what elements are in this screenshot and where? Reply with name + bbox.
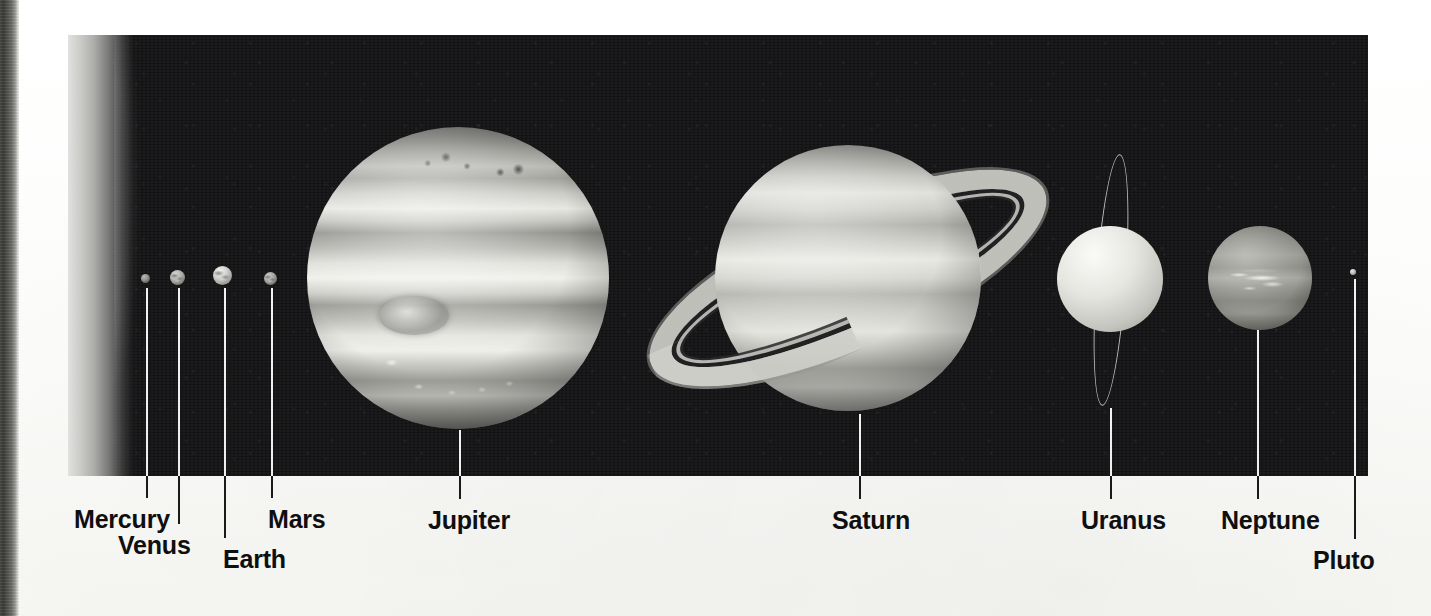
figure-page: MercuryVenusEarthMarsJupiterSaturnUranus…: [0, 0, 1431, 616]
planet-label-earth: Earth: [223, 545, 286, 574]
planet-label-uranus: Uranus: [1081, 506, 1166, 535]
jupiter-terminator-shading: [307, 127, 609, 429]
book-spine-gutter: [0, 0, 19, 616]
neptune-terminator-shading: [1208, 226, 1312, 330]
pluto-planet-icon: [1350, 269, 1356, 275]
space-photo-panel: [68, 35, 1368, 476]
planet-label-pluto: Pluto: [1313, 546, 1375, 575]
sun-limb-edge: [114, 35, 148, 476]
leader-line-pluto: [1354, 279, 1356, 539]
book-spine-grain: [0, 0, 19, 616]
leader-line-neptune: [1257, 330, 1259, 499]
mars-planet-icon: [264, 272, 277, 285]
planet-label-venus: Venus: [118, 531, 191, 560]
planet-label-jupiter: Jupiter: [428, 506, 510, 535]
neptune-planet-icon: [1208, 226, 1312, 330]
leader-line-earth: [224, 288, 226, 538]
leader-line-uranus: [1110, 408, 1112, 499]
mercury-planet-icon: [141, 274, 150, 283]
planet-label-neptune: Neptune: [1221, 506, 1320, 535]
saturn-planet-icon: [633, 208, 1063, 348]
planet-label-mercury: Mercury: [74, 505, 170, 534]
leader-line-saturn: [859, 414, 861, 499]
leader-line-venus: [178, 288, 180, 524]
earth-planet-icon: [213, 266, 232, 285]
planet-label-saturn: Saturn: [832, 506, 910, 535]
uranus-planet-icon: [1057, 226, 1163, 332]
earth-surface-mottle: [213, 266, 232, 285]
leader-line-mars: [271, 288, 273, 498]
planet-label-mars: Mars: [268, 505, 326, 534]
leader-line-mercury: [146, 288, 148, 498]
venus-surface-mottle: [170, 270, 185, 285]
leader-line-jupiter: [459, 430, 461, 499]
jupiter-planet-icon: [307, 127, 609, 429]
venus-planet-icon: [170, 270, 185, 285]
mars-surface-mottle: [264, 272, 277, 285]
